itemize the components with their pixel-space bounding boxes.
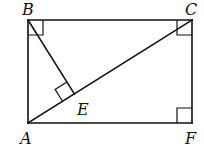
segment-ac — [28, 20, 192, 123]
right-angle-marker-f — [177, 108, 192, 123]
geometry-diagram: B C A F E — [0, 0, 204, 148]
label-c: C — [185, 0, 197, 19]
right-angle-marker-e — [55, 82, 67, 101]
label-f: F — [184, 129, 197, 148]
segment-be — [28, 20, 74, 94]
label-b: B — [21, 0, 34, 19]
label-e: E — [76, 100, 89, 119]
label-a: A — [18, 129, 32, 148]
